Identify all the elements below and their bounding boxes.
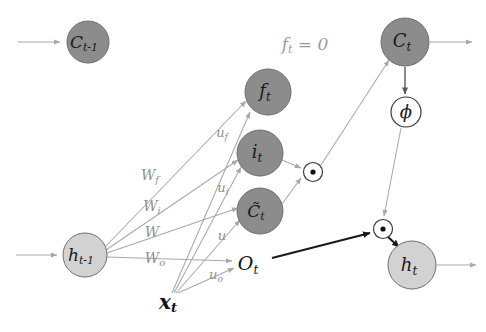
edge-mult-1-to-c-curr	[321, 60, 389, 165]
multiply-1-dot	[310, 169, 315, 174]
weight-label-u: u	[218, 228, 226, 243]
edge-o-t-to-mult-2	[272, 233, 370, 258]
edge-h-prev-to-o-t	[107, 257, 232, 261]
edge-i-gate-to-mult-1	[282, 160, 301, 168]
label-o-t: Ot	[238, 252, 259, 277]
lstm-diagram-svg: Ct-1 ft it C̃t	[0, 0, 486, 332]
edge-phi-to-mult-2	[384, 128, 401, 216]
node-i-gate[interactable]: it	[237, 130, 283, 176]
weight-label-W-o: Wo	[145, 250, 165, 268]
annotation-f-gate-zero: ft = 0	[280, 34, 329, 57]
text-label-layer: Ot xt ft = 0	[158, 34, 328, 315]
operator-multiply-1[interactable]	[304, 163, 323, 182]
label-x-t: xt	[158, 290, 177, 315]
node-f-gate[interactable]: ft	[245, 69, 291, 115]
operator-multiply-2[interactable]	[374, 220, 393, 239]
weight-label-W: W	[145, 224, 161, 240]
weight-label-W-f: Wf	[141, 167, 161, 185]
edge-x-t-to-c-tilde	[176, 220, 240, 293]
node-c-tilde[interactable]: C̃t	[237, 188, 283, 234]
node-phi-label: ϕ	[400, 101, 412, 122]
lstm-diagram-canvas: Ct-1 ft it C̃t	[0, 0, 486, 332]
weight-label-u-f: uf	[216, 125, 229, 142]
edge-c-tilde-to-mult-1	[282, 178, 301, 204]
node-h-curr[interactable]: ht	[388, 241, 436, 289]
multiply-2-dot	[380, 226, 385, 231]
node-phi-operator[interactable]: ϕ	[391, 97, 421, 127]
edge-h-prev-to-f-gate	[105, 101, 246, 247]
node-h-prev[interactable]: ht-1	[63, 233, 107, 277]
weight-label-u-i: ui	[217, 180, 228, 197]
weight-label-W-i: Wi	[143, 198, 161, 216]
node-c-prev[interactable]: Ct-1	[67, 21, 109, 63]
weight-label-u-o: uo	[209, 267, 223, 284]
node-c-curr[interactable]: Ct	[381, 18, 429, 66]
